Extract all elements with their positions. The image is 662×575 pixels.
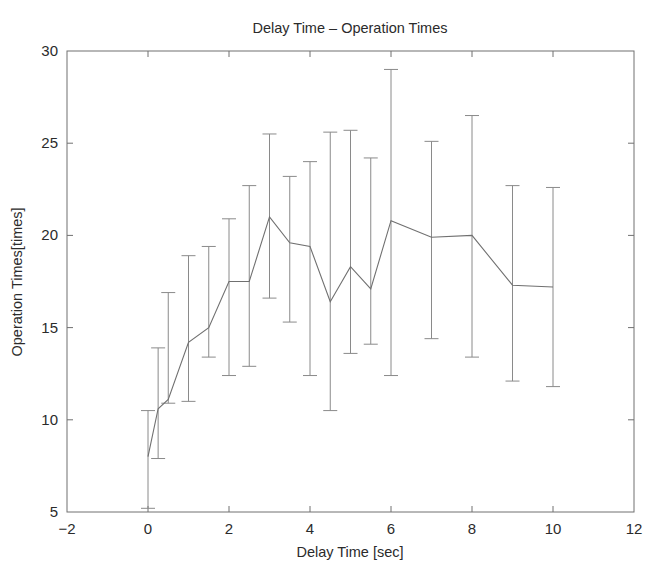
x-tick-label: 0: [144, 520, 152, 537]
x-tick-label: −2: [58, 520, 75, 537]
chart-title: Delay Time – Operation Times: [252, 20, 447, 36]
x-tick-label: 2: [225, 520, 233, 537]
chart-figure: Delay Time – Operation Times −2024681012…: [0, 0, 662, 575]
y-tick-label: 15: [41, 319, 58, 336]
x-tick-label: 6: [387, 520, 395, 537]
y-axis-title: Operation Times[times]: [9, 207, 25, 356]
y-tick-label: 30: [41, 42, 58, 59]
y-tick-label: 5: [50, 503, 58, 520]
y-tick-label: 10: [41, 411, 58, 428]
x-tick-label: 10: [545, 520, 562, 537]
y-axis-tick-labels: 51015202530: [41, 42, 58, 520]
y-tick-label: 20: [41, 226, 58, 243]
x-axis-title: Delay Time [sec]: [296, 544, 403, 560]
x-tick-label: 12: [626, 520, 643, 537]
y-tick-label: 25: [41, 134, 58, 151]
x-tick-label: 8: [468, 520, 476, 537]
x-tick-label: 4: [306, 520, 314, 537]
x-axis-tick-labels: −2024681012: [58, 520, 642, 537]
delay-time-operation-times-chart: Delay Time – Operation Times −2024681012…: [0, 0, 662, 575]
